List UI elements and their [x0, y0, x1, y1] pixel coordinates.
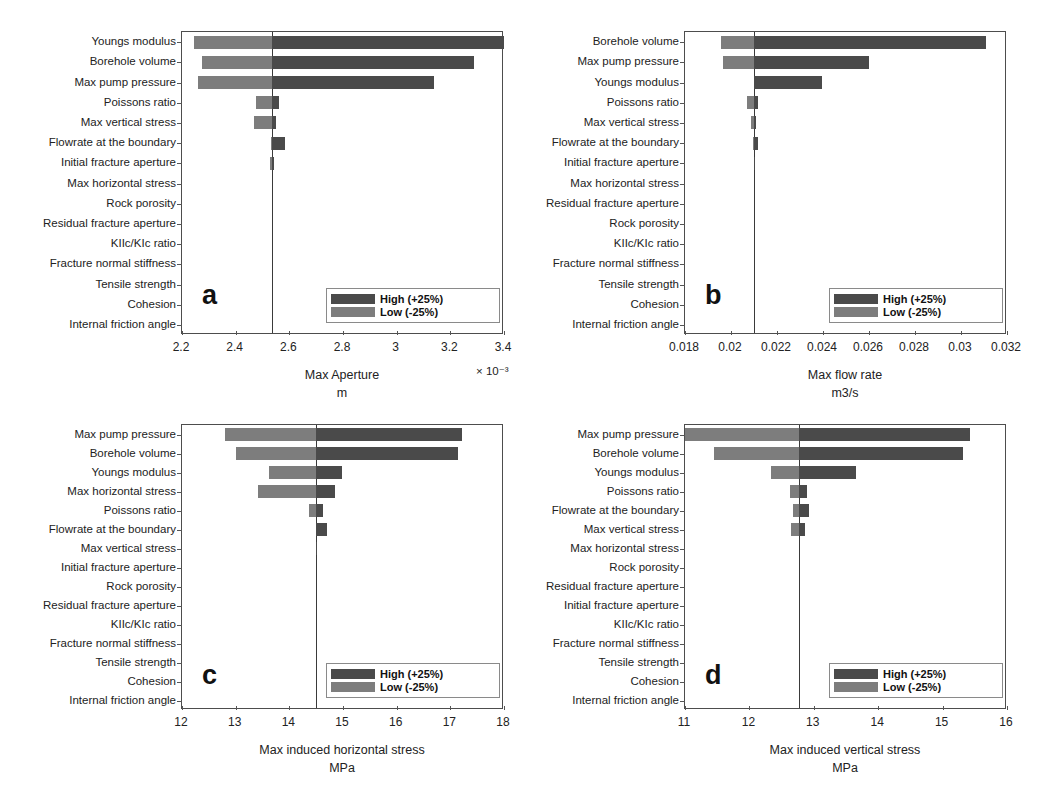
y-tick	[680, 644, 685, 645]
y-axis-label: Max vertical stress	[584, 523, 679, 535]
bar-high	[799, 504, 809, 517]
bar-high	[799, 447, 963, 460]
bar-high	[799, 485, 807, 498]
bar-low	[791, 523, 799, 536]
x-axis-title: Max induced vertical stress	[770, 743, 921, 757]
y-axis-label: KIIc/KIc ratio	[614, 618, 679, 630]
y-tick	[680, 473, 685, 474]
x-tick	[943, 706, 944, 710]
x-tick-label: 11	[678, 715, 690, 729]
y-tick	[680, 606, 685, 607]
y-axis-label: Fracture normal stiffness	[553, 637, 679, 649]
x-tick-label: 13	[806, 715, 819, 729]
y-tick	[680, 701, 685, 702]
y-axis-label: Cohesion	[630, 675, 679, 687]
y-axis-label: Residual fracture aperture	[546, 580, 679, 592]
bar-low	[771, 466, 799, 479]
x-tick-label: 16	[999, 715, 1012, 729]
y-tick	[680, 587, 685, 588]
bar-high	[799, 428, 970, 441]
bar-low	[790, 485, 799, 498]
y-axis-label: Max horizontal stress	[570, 542, 679, 554]
x-tick	[685, 706, 686, 710]
y-axis-label: Flowrate at the boundary	[552, 504, 679, 516]
x-tick	[1007, 706, 1008, 710]
bar-high	[799, 523, 805, 536]
x-axis-unit: MPa	[832, 761, 858, 775]
x-tick-label: 14	[871, 715, 884, 729]
legend-item-high: High (+25%)	[834, 668, 998, 680]
y-axis-label: Poissons ratio	[607, 485, 679, 497]
panel-letter-d: d	[705, 662, 722, 689]
y-axis-label: Initial fracture aperture	[564, 599, 679, 611]
y-tick	[680, 549, 685, 550]
y-tick	[680, 568, 685, 569]
x-tick	[749, 706, 750, 710]
y-tick	[680, 682, 685, 683]
y-tick	[680, 492, 685, 493]
y-axis-label: Internal friction angle	[572, 694, 679, 706]
x-tick	[878, 706, 879, 710]
x-tick	[814, 706, 815, 710]
y-tick	[680, 511, 685, 512]
y-axis-label: Borehole volume	[593, 447, 679, 459]
legend-label-high: High (+25%)	[883, 668, 946, 680]
bar-low	[685, 428, 799, 441]
y-axis-label: Rock porosity	[609, 561, 679, 573]
bar-low	[714, 447, 799, 460]
legend-item-low: Low (-25%)	[834, 681, 998, 693]
y-axis-label: Youngs modulus	[594, 466, 679, 478]
x-tick-label: 15	[935, 715, 948, 729]
y-tick	[680, 663, 685, 664]
y-tick	[680, 454, 685, 455]
y-tick	[680, 530, 685, 531]
panel-d: Max pump pressureBorehole volumeYoungs m…	[0, 0, 1037, 808]
legend-label-low: Low (-25%)	[883, 681, 941, 693]
y-tick	[680, 625, 685, 626]
legend-swatch-high	[834, 669, 878, 679]
y-axis-label: Max pump pressure	[577, 428, 679, 440]
tornado-sensitivity-figure: Youngs modulusBorehole volumeMax pump pr…	[0, 0, 1037, 808]
legend-d: High (+25%)Low (-25%)	[829, 663, 1003, 698]
x-tick-label: 12	[742, 715, 755, 729]
y-axis-label: Tensile strength	[598, 656, 679, 668]
bar-high	[799, 466, 856, 479]
legend-swatch-low	[834, 682, 878, 692]
